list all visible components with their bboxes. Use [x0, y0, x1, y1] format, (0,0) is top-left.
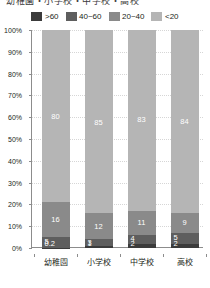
legend-item[interactable]: <20 [151, 12, 178, 21]
bar-segment-value: 83 [128, 116, 156, 124]
x-axis-tick [206, 254, 207, 257]
bar-segment-value: 1 [88, 240, 92, 248]
y-axis-tick [29, 117, 32, 118]
y-axis-label: 10% [8, 223, 22, 230]
legend-swatch-icon [109, 12, 120, 21]
y-axis-label: 0% [12, 245, 22, 252]
legend-item[interactable]: >60 [31, 12, 58, 21]
legend-swatch-icon [66, 12, 77, 21]
legend-item-label: 20~40 [122, 12, 144, 21]
y-axis-tick [29, 204, 32, 205]
bar-stack[interactable]: 84952 [171, 30, 199, 248]
x-axis-tick [163, 254, 164, 257]
y-axis-label: 70% [8, 92, 22, 99]
x-axis-label: 小学校 [77, 258, 120, 267]
bar-segment-value: 80 [42, 113, 70, 121]
y-axis-tick [29, 95, 32, 96]
x-axis-label: 高校 [163, 258, 206, 267]
chart-title-strip: 幼稚園・小学校・中学校・高校 [0, 0, 210, 8]
y-axis-label: 40% [8, 157, 22, 164]
y-axis-label: 90% [8, 48, 22, 55]
y-axis-label: 100% [4, 27, 22, 34]
y-axis-label: 20% [8, 201, 22, 208]
legend-item-label: 40~60 [79, 12, 101, 21]
bar-segment[interactable]: 84 [171, 30, 199, 213]
legend-item-label: >60 [45, 12, 59, 21]
y-axis-label: 80% [8, 70, 22, 77]
y-axis-tick [29, 74, 32, 75]
y-axis-label: 50% [8, 136, 22, 143]
y-axis-tick [29, 139, 32, 140]
bar-segment-value: 12 [85, 223, 113, 231]
legend-swatch-icon [151, 12, 162, 21]
bar-segment[interactable]: 16 [42, 202, 70, 236]
bar-segment[interactable]: 2 [171, 244, 199, 248]
x-axis-tick [34, 254, 35, 257]
bar-segment-value: 2 [174, 240, 178, 248]
bar-segment-value: 84 [171, 118, 199, 126]
chart-legend: >6040~6020~40<20 [0, 9, 210, 23]
y-axis-tick [29, 52, 32, 53]
legend-swatch-icon [31, 12, 42, 21]
plot-area: 0%10%20%30%40%50%60%70%80%90%100%801650.… [31, 30, 203, 248]
bar-stack[interactable]: 831142 [128, 30, 156, 248]
bar-segment[interactable]: 2 [128, 244, 156, 248]
legend-item[interactable]: 20~40 [109, 12, 145, 21]
y-axis-tick [29, 183, 32, 184]
legend-item-label: <20 [165, 12, 179, 21]
bar-segment-value: 85 [85, 119, 113, 127]
legend-item[interactable]: 40~60 [66, 12, 102, 21]
bar-segment-value: 2 [131, 240, 135, 248]
stacked-bar-chart: 0%10%20%30%40%50%60%70%80%90%100%801650.… [0, 24, 210, 288]
bar-segment-value: 0.2 [45, 240, 55, 248]
x-axis-tick [77, 254, 78, 257]
bar-segment[interactable]: 9 [171, 213, 199, 233]
bar-segment[interactable]: 12 [85, 213, 113, 239]
bar-stack[interactable]: 801650.2 [42, 30, 70, 248]
bar-segment[interactable]: 83 [128, 30, 156, 211]
bar-stack[interactable]: 851231 [85, 30, 113, 248]
y-axis-tick [29, 30, 32, 31]
bar-segment[interactable]: 11 [128, 211, 156, 235]
y-axis-label: 30% [8, 179, 22, 186]
bar-segment[interactable]: 80 [42, 30, 70, 202]
x-axis-tick [120, 254, 121, 257]
y-axis-tick [29, 161, 32, 162]
bar-segment[interactable]: 1 [85, 246, 113, 248]
bar-segment-value: 11 [128, 219, 156, 227]
y-axis-label: 60% [8, 114, 22, 121]
x-axis-label: 幼稚園 [34, 258, 77, 267]
bar-segment-value: 9 [171, 219, 199, 227]
y-axis-tick [29, 226, 32, 227]
x-axis-label: 中学校 [120, 258, 163, 267]
page-title: 幼稚園・小学校・中学校・高校 [6, 0, 139, 7]
bar-segment[interactable]: 85 [85, 30, 113, 213]
y-axis-tick [29, 248, 32, 249]
bar-segment-value: 16 [42, 216, 70, 224]
